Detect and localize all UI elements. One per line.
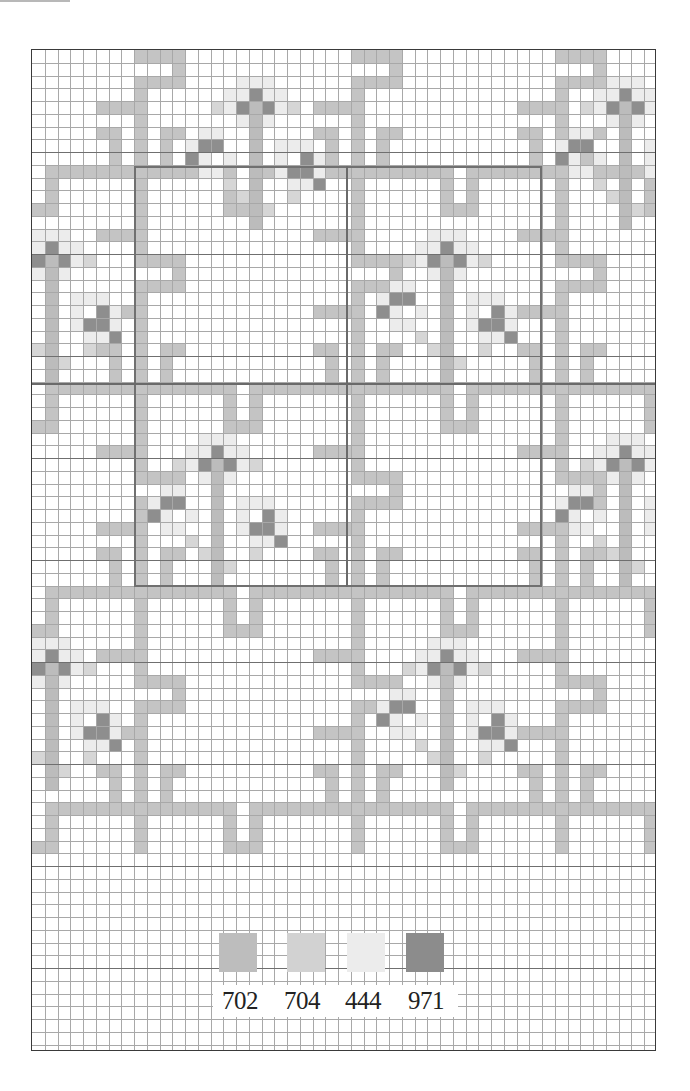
grid-line-vertical [223,50,224,1050]
grid-line-horizontal [32,726,655,727]
grid-line-vertical [644,50,645,1050]
grid-line-horizontal [32,229,655,230]
grid-line-horizontal [32,700,655,701]
center-guide-horizontal [32,383,655,385]
grid-line-horizontal [32,305,655,306]
grid-line-vertical [427,50,428,1050]
grid-line-vertical [364,50,365,1050]
grid-line-horizontal [32,280,655,281]
grid-line-horizontal [32,356,655,357]
grid-line-vertical [300,50,301,1050]
grid-line-vertical [491,50,492,1050]
grid-line-horizontal [32,190,655,191]
grid-line-vertical [313,50,314,1050]
grid-line-horizontal [32,496,655,497]
grid-line-horizontal [32,254,655,255]
grid-line-horizontal [32,318,655,319]
grid-line-horizontal [32,216,655,217]
grid-line-vertical [593,50,594,1050]
grid-line-vertical [555,50,556,1050]
grid-line-vertical [83,50,84,1050]
grid-line-horizontal [32,433,655,434]
grid-line-horizontal [32,751,655,752]
grid-line-horizontal [32,331,655,332]
grid-line-horizontal [32,458,655,459]
grid-line-horizontal [32,139,655,140]
grid-line-horizontal [32,713,655,714]
grid-line-horizontal [32,1032,655,1033]
grid-line-horizontal [32,841,655,842]
grid-line-vertical [529,50,530,1050]
grid-line-horizontal [32,739,655,740]
grid-line-horizontal [32,88,655,89]
grid-line-horizontal [32,611,655,612]
grid-line-horizontal [32,445,655,446]
grid-line-vertical [389,50,390,1050]
grid-line-horizontal [32,917,655,918]
grid-line-vertical [45,50,46,1050]
grid-line-vertical [198,50,199,1050]
grid-line-vertical [542,50,543,1050]
grid-line-horizontal [32,828,655,829]
grid-line-horizontal [32,292,655,293]
grid-line-horizontal [32,1019,655,1020]
grid-line-vertical [606,50,607,1050]
grid-line-vertical [568,50,569,1050]
grid-line-vertical [70,50,71,1050]
grid-line-horizontal [32,560,655,561]
grid-line-vertical [134,50,135,1050]
grid-line-vertical [631,50,632,1050]
grid-lines [32,50,655,1050]
grid-line-vertical [619,50,620,1050]
grid-line-vertical [325,50,326,1050]
grid-line-horizontal [32,879,655,880]
grid-line-horizontal [32,76,655,77]
grid-line-horizontal [32,790,655,791]
grid-line-horizontal [32,535,655,536]
grid-line-horizontal [32,267,655,268]
top-rule [0,0,70,2]
grid-line-horizontal [32,203,655,204]
center-guide-vertical [346,166,348,587]
grid-line-vertical [249,50,250,1050]
grid-line-vertical [160,50,161,1050]
grid-line-vertical [211,50,212,1050]
grid-line-horizontal [32,522,655,523]
grid-line-horizontal [32,968,655,969]
grid-line-horizontal [32,394,655,395]
grid-line-vertical [351,50,352,1050]
grid-line-horizontal [32,675,655,676]
grid-line-horizontal [32,637,655,638]
grid-line-horizontal [32,152,655,153]
grid-line-horizontal [32,586,655,587]
grid-line-horizontal [32,624,655,625]
grid-line-vertical [478,50,479,1050]
grid-line-vertical [236,50,237,1050]
grid-line-horizontal [32,369,655,370]
grid-line-horizontal [32,63,655,64]
grid-line-horizontal [32,904,655,905]
grid-line-vertical [580,50,581,1050]
grid-line-vertical [185,50,186,1050]
grid-line-horizontal [32,892,655,893]
grid-line-horizontal [32,994,655,995]
grid-line-horizontal [32,866,655,867]
grid-line-vertical [262,50,263,1050]
grid-line-vertical [58,50,59,1050]
grid-line-horizontal [32,777,655,778]
grid-line-vertical [440,50,441,1050]
grid-line-horizontal [32,802,655,803]
grid-line-horizontal [32,420,655,421]
grid-line-vertical [172,50,173,1050]
grid-line-horizontal [32,573,655,574]
grid-line-vertical [274,50,275,1050]
grid-line-horizontal [32,662,655,663]
grid-line-horizontal [32,241,655,242]
grid-line-vertical [466,50,467,1050]
grid-line-horizontal [32,688,655,689]
grid-line-vertical [415,50,416,1050]
grid-line-horizontal [32,598,655,599]
grid-line-horizontal [32,484,655,485]
grid-line-vertical [453,50,454,1050]
grid-line-vertical [504,50,505,1050]
